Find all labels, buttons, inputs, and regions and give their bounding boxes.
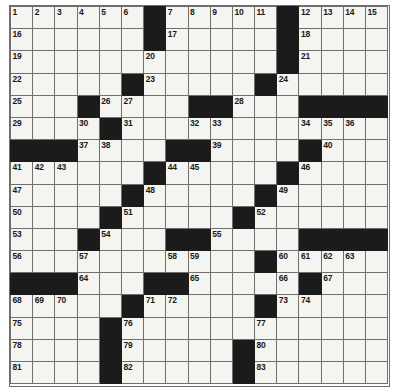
letter-cell[interactable]	[33, 317, 55, 339]
letter-cell[interactable]	[144, 251, 166, 273]
letter-cell[interactable]: 5	[99, 7, 121, 29]
letter-cell[interactable]: 15	[366, 7, 388, 29]
letter-cell[interactable]	[166, 73, 188, 95]
letter-cell[interactable]: 29	[11, 117, 33, 139]
letter-cell[interactable]	[121, 251, 143, 273]
letter-cell[interactable]	[299, 362, 321, 384]
letter-cell[interactable]: 73	[277, 295, 299, 317]
letter-cell[interactable]: 59	[188, 251, 210, 273]
letter-cell[interactable]	[77, 162, 99, 184]
letter-cell[interactable]	[55, 362, 77, 384]
letter-cell[interactable]	[366, 73, 388, 95]
letter-cell[interactable]	[299, 317, 321, 339]
letter-cell[interactable]	[33, 228, 55, 250]
letter-cell[interactable]	[255, 117, 277, 139]
letter-cell[interactable]	[321, 184, 343, 206]
letter-cell[interactable]	[77, 339, 99, 361]
letter-cell[interactable]: 22	[11, 73, 33, 95]
letter-cell[interactable]: 33	[210, 117, 232, 139]
letter-cell[interactable]	[188, 184, 210, 206]
letter-cell[interactable]	[321, 29, 343, 51]
letter-cell[interactable]: 28	[232, 95, 254, 117]
letter-cell[interactable]	[232, 228, 254, 250]
letter-cell[interactable]	[299, 73, 321, 95]
letter-cell[interactable]	[99, 29, 121, 51]
letter-cell[interactable]: 70	[55, 295, 77, 317]
letter-cell[interactable]	[188, 295, 210, 317]
letter-cell[interactable]	[121, 51, 143, 73]
letter-cell[interactable]	[166, 317, 188, 339]
letter-cell[interactable]	[255, 228, 277, 250]
letter-cell[interactable]	[188, 29, 210, 51]
letter-cell[interactable]	[366, 362, 388, 384]
letter-cell[interactable]	[210, 184, 232, 206]
letter-cell[interactable]: 19	[11, 51, 33, 73]
letter-cell[interactable]: 61	[299, 251, 321, 273]
letter-cell[interactable]	[255, 51, 277, 73]
letter-cell[interactable]: 20	[144, 51, 166, 73]
letter-cell[interactable]	[232, 251, 254, 273]
letter-cell[interactable]	[210, 29, 232, 51]
letter-cell[interactable]	[232, 184, 254, 206]
letter-cell[interactable]	[210, 273, 232, 295]
letter-cell[interactable]: 77	[255, 317, 277, 339]
letter-cell[interactable]	[55, 95, 77, 117]
letter-cell[interactable]: 2	[33, 7, 55, 29]
letter-cell[interactable]	[232, 140, 254, 162]
letter-cell[interactable]	[166, 184, 188, 206]
letter-cell[interactable]	[343, 295, 365, 317]
letter-cell[interactable]	[366, 51, 388, 73]
letter-cell[interactable]: 32	[188, 117, 210, 139]
letter-cell[interactable]	[232, 317, 254, 339]
letter-cell[interactable]	[321, 317, 343, 339]
letter-cell[interactable]: 31	[121, 117, 143, 139]
letter-cell[interactable]	[188, 206, 210, 228]
letter-cell[interactable]	[255, 140, 277, 162]
letter-cell[interactable]	[33, 339, 55, 361]
letter-cell[interactable]	[77, 51, 99, 73]
letter-cell[interactable]: 11	[255, 7, 277, 29]
letter-cell[interactable]	[188, 362, 210, 384]
letter-cell[interactable]	[121, 273, 143, 295]
letter-cell[interactable]	[55, 73, 77, 95]
letter-cell[interactable]: 55	[210, 228, 232, 250]
letter-cell[interactable]	[277, 362, 299, 384]
letter-cell[interactable]	[144, 95, 166, 117]
letter-cell[interactable]: 78	[11, 339, 33, 361]
letter-cell[interactable]: 81	[11, 362, 33, 384]
letter-cell[interactable]	[277, 206, 299, 228]
letter-cell[interactable]: 18	[299, 29, 321, 51]
letter-cell[interactable]	[343, 73, 365, 95]
letter-cell[interactable]	[144, 339, 166, 361]
letter-cell[interactable]	[321, 206, 343, 228]
letter-cell[interactable]	[277, 317, 299, 339]
letter-cell[interactable]	[77, 184, 99, 206]
letter-cell[interactable]	[166, 362, 188, 384]
letter-cell[interactable]	[55, 51, 77, 73]
letter-cell[interactable]	[321, 51, 343, 73]
letter-cell[interactable]: 57	[77, 251, 99, 273]
letter-cell[interactable]: 23	[144, 73, 166, 95]
letter-cell[interactable]: 76	[121, 317, 143, 339]
letter-cell[interactable]	[99, 162, 121, 184]
letter-cell[interactable]	[277, 117, 299, 139]
letter-cell[interactable]: 60	[277, 251, 299, 273]
letter-cell[interactable]	[277, 140, 299, 162]
letter-cell[interactable]	[366, 317, 388, 339]
letter-cell[interactable]	[77, 295, 99, 317]
letter-cell[interactable]: 63	[343, 251, 365, 273]
letter-cell[interactable]	[366, 184, 388, 206]
letter-cell[interactable]: 68	[11, 295, 33, 317]
letter-cell[interactable]	[33, 117, 55, 139]
letter-cell[interactable]: 44	[166, 162, 188, 184]
letter-cell[interactable]: 37	[77, 140, 99, 162]
crossword-grid[interactable]: 1234567891011121314151617181920212223242…	[10, 6, 388, 384]
letter-cell[interactable]	[299, 339, 321, 361]
letter-cell[interactable]	[166, 206, 188, 228]
letter-cell[interactable]	[55, 29, 77, 51]
letter-cell[interactable]	[343, 339, 365, 361]
letter-cell[interactable]	[232, 117, 254, 139]
letter-cell[interactable]	[55, 117, 77, 139]
letter-cell[interactable]: 50	[11, 206, 33, 228]
letter-cell[interactable]	[210, 362, 232, 384]
